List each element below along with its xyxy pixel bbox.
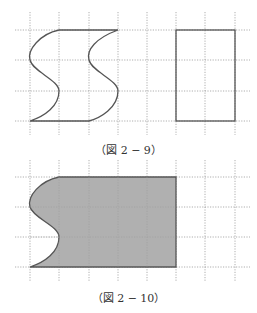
s-shape — [30, 30, 118, 121]
caption-fig-2-10: （図 2 − 10） — [0, 289, 257, 305]
rectangle — [176, 30, 235, 121]
caption-fig-2-9: （図 2 − 9） — [0, 141, 257, 157]
shaded-region — [30, 177, 176, 267]
